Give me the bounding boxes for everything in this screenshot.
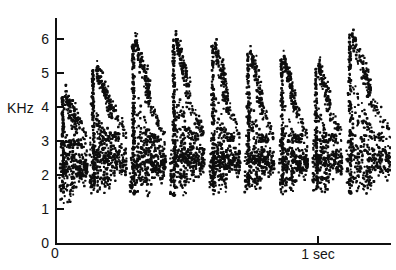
y-axis-label: KHz [7,101,34,115]
plot-area [57,18,391,243]
x-axis-tick-label-one-sec: 1 sec [301,247,334,261]
spectrogram-figure: KHz 0123456 0 1 sec [0,0,396,270]
y-tick-label-4: 4 [35,100,49,114]
x-axis-line [55,243,391,245]
y-tick-label-5: 5 [35,66,49,80]
x-axis-tick-label-origin: 0 [51,246,59,260]
y-tick-label-3: 3 [35,134,49,148]
y-tick-label-6: 6 [35,32,49,46]
y-tick-label-0: 0 [35,236,49,250]
y-tick-label-1: 1 [35,202,49,216]
spectrogram-dot-cloud [57,18,391,243]
y-tick-label-2: 2 [35,168,49,182]
